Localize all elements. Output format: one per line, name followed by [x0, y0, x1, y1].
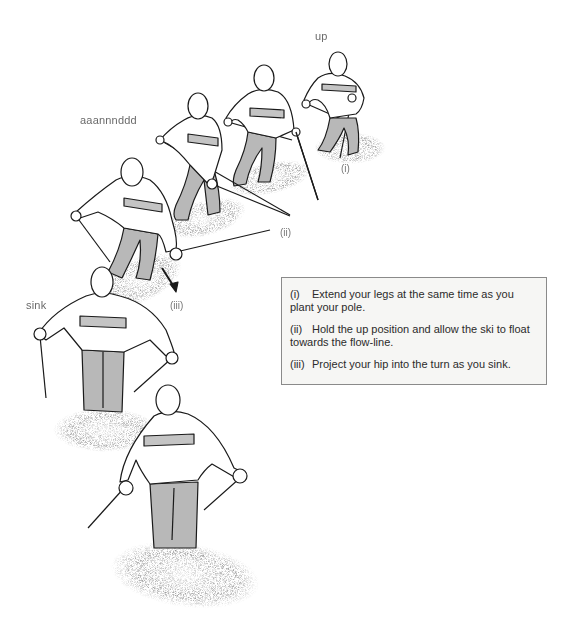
label-up: up: [315, 30, 328, 42]
instruction-number: (iii): [290, 358, 312, 371]
instruction-item: (ii)Hold the up position and allow the s…: [290, 323, 538, 349]
label-sink: sink: [26, 299, 46, 311]
label-and: aaannnddd: [80, 114, 137, 126]
instruction-item: (iii)Project your hip into the turn as y…: [290, 358, 538, 371]
instruction-text: Hold the up position and allow the ski t…: [290, 323, 530, 348]
instruction-text: Project your hip into the turn as you si…: [312, 358, 511, 370]
phase-marker-ii: (ii): [280, 227, 291, 238]
instruction-number: (i): [290, 288, 312, 301]
phase-marker-i: (i): [341, 163, 350, 174]
instruction-number: (ii): [290, 323, 312, 336]
instruction-item: (i)Extend your legs at the same time as …: [290, 288, 538, 314]
skier-1: [302, 52, 364, 158]
instructions-box: (i)Extend your legs at the same time as …: [281, 277, 547, 385]
phase-marker-iii: (iii): [170, 300, 183, 311]
instruction-text: Extend your legs at the same time as you…: [290, 288, 514, 313]
